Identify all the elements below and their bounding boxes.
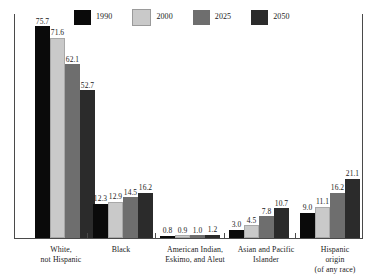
bar-group: 12.312.914.516.2 — [93, 14, 153, 238]
bar[interactable]: 21.1 — [345, 14, 360, 238]
axis-tick — [155, 233, 156, 239]
bar-rect — [244, 225, 259, 238]
bar-value-label: 12.3 — [94, 195, 107, 203]
right-axis-line — [362, 14, 363, 238]
bar-rect — [345, 179, 360, 238]
bar-group: 75.771.662.152.7 — [35, 14, 95, 238]
bar-value-label: 16.2 — [139, 184, 152, 192]
bar[interactable]: 62.1 — [65, 14, 80, 238]
category-label-line: not Hispanic — [17, 255, 105, 265]
bar-value-label: 71.6 — [51, 29, 64, 37]
bar[interactable]: 1.2 — [205, 14, 220, 238]
bar[interactable]: 1.0 — [190, 14, 205, 238]
bar-group: 9.011.116.221.1 — [300, 14, 360, 238]
bar[interactable]: 4.5 — [244, 14, 259, 238]
bar-rect — [123, 197, 138, 238]
category-label-line: (of any race) — [293, 265, 372, 275]
x-axis-baseline — [14, 238, 363, 239]
bar-value-label: 0.9 — [178, 227, 188, 235]
bar-group-bars: 0.80.91.01.2 — [160, 14, 220, 238]
bar[interactable]: 14.5 — [123, 14, 138, 238]
bar-value-label: 12.9 — [109, 193, 122, 201]
bar[interactable]: 0.9 — [175, 14, 190, 238]
bar-rect — [35, 26, 50, 238]
bar-value-label: 1.0 — [193, 227, 203, 235]
bar[interactable]: 16.2 — [330, 14, 345, 238]
bar-rect — [274, 208, 289, 238]
bar[interactable]: 0.8 — [160, 14, 175, 238]
bar-group-bars: 12.312.914.516.2 — [93, 14, 153, 238]
bar-group: 3.04.57.810.7 — [229, 14, 289, 238]
bar-value-label: 14.5 — [124, 189, 137, 197]
bar-rect — [300, 213, 315, 238]
bar[interactable]: 7.8 — [259, 14, 274, 238]
bar-value-label: 1.2 — [208, 226, 218, 234]
bar-rect — [190, 235, 205, 238]
axis-tick — [224, 233, 225, 239]
bar-value-label: 11.1 — [316, 198, 329, 206]
bar[interactable]: 71.6 — [50, 14, 65, 238]
bar[interactable]: 75.7 — [35, 14, 50, 238]
bar-rect — [205, 235, 220, 238]
bar[interactable]: 9.0 — [300, 14, 315, 238]
bar-group-bars: 75.771.662.152.7 — [35, 14, 95, 238]
plot-area: 75.771.662.152.712.312.914.516.20.80.91.… — [15, 14, 362, 238]
bar-value-label: 62.1 — [66, 56, 79, 64]
bar-value-label: 4.5 — [247, 217, 257, 225]
bar-rect — [93, 204, 108, 238]
bar-value-label: 9.0 — [303, 204, 313, 212]
bar[interactable]: 11.1 — [315, 14, 330, 238]
bar-value-label: 21.1 — [346, 170, 359, 178]
bar[interactable]: 12.3 — [93, 14, 108, 238]
bar-value-label: 75.7 — [36, 18, 49, 26]
bar[interactable]: 16.2 — [138, 14, 153, 238]
bar-rect — [259, 216, 274, 238]
bar-value-label: 0.8 — [163, 227, 173, 235]
bar-rect — [175, 235, 190, 238]
bar-rect — [65, 64, 80, 238]
bar-rect — [229, 230, 244, 238]
bar-group-bars: 3.04.57.810.7 — [229, 14, 289, 238]
bar[interactable]: 3.0 — [229, 14, 244, 238]
axis-tick — [87, 233, 88, 239]
bar-rect — [50, 38, 65, 238]
bar-rect — [330, 193, 345, 238]
category-label-line: Hispanic — [293, 245, 372, 255]
category-label: Hispanicorigin(of any race) — [293, 245, 372, 275]
bar[interactable]: 10.7 — [274, 14, 289, 238]
bar-rect — [138, 193, 153, 238]
bar-rect — [160, 236, 175, 238]
bar-chart: 1990200020252050 75.771.662.152.712.312.… — [0, 0, 372, 280]
axis-tick — [295, 233, 296, 239]
bar-group: 0.80.91.01.2 — [160, 14, 220, 238]
bar-value-label: 10.7 — [275, 200, 288, 208]
bar-value-label: 16.2 — [331, 184, 344, 192]
bar-rect — [108, 202, 123, 238]
bar-rect — [315, 207, 330, 238]
bar-group-bars: 9.011.116.221.1 — [300, 14, 360, 238]
bar[interactable]: 12.9 — [108, 14, 123, 238]
bar-value-label: 7.8 — [262, 208, 272, 216]
category-label-line: origin — [293, 255, 372, 265]
bar-value-label: 3.0 — [232, 221, 242, 229]
